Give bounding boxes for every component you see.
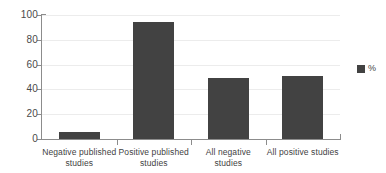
x-tick-boundary-1 [117, 139, 118, 145]
y-axis-line [41, 14, 42, 140]
y-tick-label-80: 80 [0, 35, 38, 45]
gridline-100 [42, 15, 340, 16]
legend-square-swatch-icon [357, 65, 365, 73]
bar-positive-published-studies [133, 22, 174, 139]
bar-chart: 100 80 60 40 20 0 Negative published stu… [0, 0, 386, 173]
plot-area [42, 15, 340, 139]
chart-legend: % [357, 64, 376, 73]
gridline-60 [42, 65, 340, 66]
y-tick-label-0: 0 [0, 134, 38, 144]
y-tick-label-40: 40 [0, 84, 38, 94]
x-axis-label-all-positive-studies: All positive studies [266, 147, 341, 158]
y-tick-label-100: 100 [0, 10, 38, 20]
legend-entry-label: % [368, 64, 376, 73]
x-tick-boundary-2 [191, 139, 192, 145]
x-axis-label-negative-published-studies: Negative published studies [42, 147, 117, 168]
bar-all-positive-studies [282, 76, 323, 139]
x-tick-boundary-3 [266, 139, 267, 145]
y-tick-label-60: 60 [0, 60, 38, 70]
bar-all-negative-studies [208, 78, 249, 139]
y-tick-label-20: 20 [0, 109, 38, 119]
x-axis-label-positive-published-studies: Positive published studies [117, 147, 192, 168]
bar-negative-published-studies [59, 132, 100, 139]
x-axis-end-cap [340, 134, 341, 140]
gridline-80 [42, 40, 340, 41]
x-axis-label-all-negative-studies: All negative studies [191, 147, 266, 168]
